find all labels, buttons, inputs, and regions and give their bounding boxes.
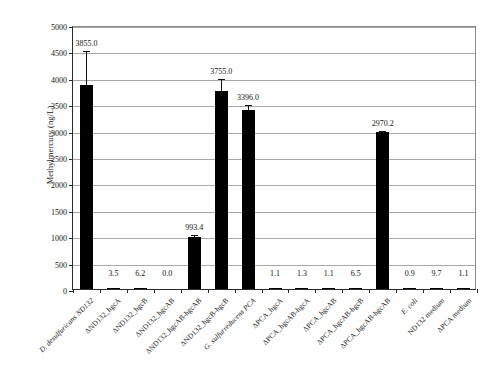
x-tick-mark — [315, 289, 316, 293]
x-tick-mark — [154, 289, 155, 293]
bar — [242, 110, 255, 289]
bar — [376, 132, 389, 289]
x-category-label: G. sulfurreducens PCA — [202, 296, 258, 352]
bar-value-label: 1.1 — [459, 269, 469, 278]
y-tick-label: 5000 — [51, 23, 67, 32]
y-tick-mark — [69, 80, 73, 81]
y-tick-mark — [69, 133, 73, 134]
bar-value-label: 993.4 — [185, 223, 203, 232]
bar — [457, 288, 470, 289]
x-tick-mark — [127, 289, 128, 293]
y-axis-title: Methylmercury (ng/L) — [45, 35, 55, 255]
y-tick-mark — [69, 27, 73, 28]
x-tick-mark — [100, 289, 101, 293]
x-tick-mark — [369, 289, 370, 293]
x-tick-mark — [450, 289, 451, 293]
y-tick-label: 1000 — [51, 234, 67, 243]
y-tick-mark — [69, 212, 73, 213]
bar-value-label: 1.1 — [270, 269, 280, 278]
bar-value-label: 0.9 — [405, 269, 415, 278]
x-tick-mark — [423, 289, 424, 293]
gridline — [73, 265, 475, 266]
bar-value-label: 6.2 — [135, 269, 145, 278]
gridline — [73, 27, 475, 28]
bar — [215, 91, 228, 289]
x-tick-mark — [342, 289, 343, 293]
x-category-label: ΔPCA_hgcAB-hgcAB — [338, 296, 392, 350]
bar — [322, 288, 335, 289]
gridline — [73, 212, 475, 213]
bar — [188, 237, 201, 289]
y-tick-label: 3500 — [51, 102, 67, 111]
plot-area: 0500100015002000250030003500400045005000… — [72, 26, 476, 290]
x-tick-mark — [181, 289, 182, 293]
error-bar-cap — [218, 79, 225, 80]
bar-value-label: 2970.2 — [372, 119, 394, 128]
error-bar — [86, 51, 87, 87]
x-category-label: E. coli — [399, 296, 419, 316]
y-tick-label: 3000 — [51, 128, 67, 137]
error-bar-cap — [191, 235, 198, 236]
gridline — [73, 185, 475, 186]
bar — [80, 85, 93, 289]
y-tick-label: 0 — [63, 287, 67, 296]
bar — [134, 288, 147, 289]
bar — [269, 288, 282, 289]
y-tick-label: 2500 — [51, 155, 67, 164]
bar — [403, 288, 416, 289]
y-tick-label: 4000 — [51, 75, 67, 84]
error-bar-cap — [83, 51, 90, 52]
bar — [107, 288, 120, 289]
y-tick-mark — [69, 53, 73, 54]
bar-value-label: 6.5 — [351, 269, 361, 278]
bar-value-label: 1.1 — [324, 269, 334, 278]
y-tick-label: 4500 — [51, 49, 67, 58]
x-tick-mark — [477, 289, 478, 293]
bar-value-label: 9.7 — [432, 269, 442, 278]
gridline — [73, 106, 475, 107]
bar-value-label: 3.5 — [108, 269, 118, 278]
x-tick-mark — [262, 289, 263, 293]
x-tick-mark — [208, 289, 209, 293]
gridline — [73, 238, 475, 239]
y-tick-label: 500 — [55, 260, 67, 269]
gridline — [73, 80, 475, 81]
y-tick-label: 2000 — [51, 181, 67, 190]
gridline — [73, 133, 475, 134]
x-tick-mark — [235, 289, 236, 293]
bar — [295, 288, 308, 289]
x-category-label: ΔND132_hgcB-hgcB — [178, 296, 230, 348]
error-bar-cap — [245, 105, 252, 106]
bar-value-label: 3855.0 — [75, 39, 97, 48]
bar-value-label: 1.3 — [297, 269, 307, 278]
y-tick-mark — [69, 265, 73, 266]
x-category-label: ΔPCA_hgcAB-hgcA — [260, 296, 311, 347]
y-tick-mark — [69, 238, 73, 239]
x-tick-mark — [73, 289, 74, 293]
error-bar-cap — [379, 131, 386, 132]
bar-value-label: 0.0 — [162, 269, 172, 278]
bar — [349, 288, 362, 289]
y-tick-label: 1500 — [51, 207, 67, 216]
x-category-label: ΔPCA_hgcAB-hgcB — [315, 296, 366, 347]
bar-value-label: 3396.0 — [237, 93, 259, 102]
y-tick-mark — [69, 185, 73, 186]
gridline — [73, 53, 475, 54]
methylmercury-bar-chart: Methylmercury (ng/L) 0500100015002000250… — [0, 0, 499, 386]
x-tick-mark — [288, 289, 289, 293]
y-tick-mark — [69, 159, 73, 160]
bar-value-label: 3755.0 — [210, 67, 232, 76]
gridline — [73, 159, 475, 160]
x-tick-mark — [396, 289, 397, 293]
bar — [430, 288, 443, 289]
error-bar — [221, 79, 222, 92]
y-tick-mark — [69, 106, 73, 107]
